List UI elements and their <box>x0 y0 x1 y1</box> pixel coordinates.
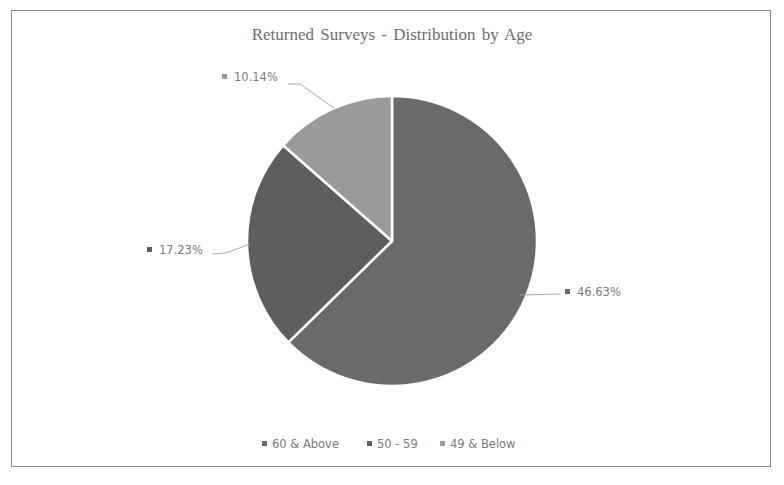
leader-line-50-59 <box>212 244 250 254</box>
data-label-60-above: 46.63% <box>565 285 621 299</box>
legend-label: 60 & Above <box>272 437 339 451</box>
pie-chart <box>0 0 784 485</box>
data-label-50-59: 17.23% <box>147 243 203 257</box>
chart-legend: 60 & Above 50 - 59 49 & Below <box>0 436 784 452</box>
legend-item-60-above: 60 & Above <box>262 436 339 452</box>
marker-50-59 <box>147 247 152 252</box>
legend-marker <box>367 441 372 446</box>
legend-item-50-59: 50 - 59 <box>367 436 418 452</box>
marker-60-above <box>565 289 570 294</box>
marker-49-below <box>222 74 227 79</box>
legend-label: 49 & Below <box>450 437 516 451</box>
data-label-text: 10.14% <box>234 70 278 84</box>
legend-item-49-below: 49 & Below <box>440 436 516 452</box>
legend-marker <box>262 441 267 446</box>
data-label-text: 46.63% <box>577 285 621 299</box>
data-label-49-below: 10.14% <box>222 70 278 84</box>
leader-line-49-below <box>288 84 334 108</box>
legend-label: 50 - 59 <box>377 437 418 451</box>
data-label-text: 17.23% <box>159 243 203 257</box>
legend-marker <box>440 441 445 446</box>
